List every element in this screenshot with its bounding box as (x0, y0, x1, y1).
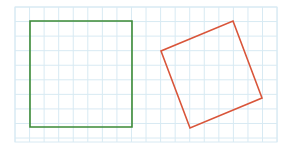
red-rotated-square (161, 21, 262, 128)
grid-paper (15, 7, 277, 142)
diagram-canvas (0, 0, 287, 151)
